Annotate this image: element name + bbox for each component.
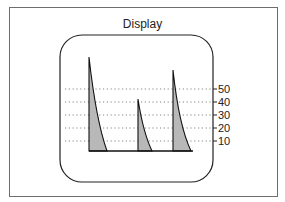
tick-label-30: 30	[218, 109, 230, 121]
display-screen-border	[60, 35, 213, 182]
peak-3	[173, 70, 191, 151]
tick-label-10: 10	[218, 135, 230, 147]
peak-2	[138, 99, 152, 151]
tick-label-20: 20	[218, 122, 230, 134]
tick-label-40: 40	[218, 96, 230, 108]
tick-label-50: 50	[218, 83, 230, 95]
peak-1	[89, 57, 107, 151]
peaks	[89, 57, 191, 151]
display-diagram: 50 40 30 20 10	[0, 0, 285, 202]
tick-labels: 50 40 30 20 10	[218, 83, 230, 147]
